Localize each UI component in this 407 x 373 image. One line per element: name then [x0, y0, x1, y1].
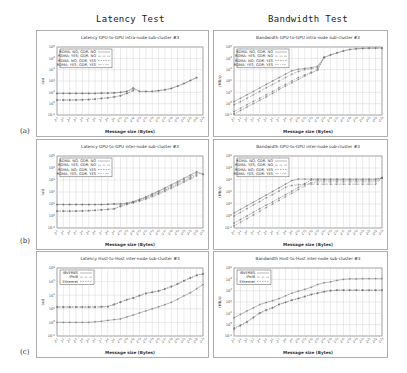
legend-entry-label: RDMA: YES; GDR: YES	[57, 172, 97, 176]
chart-title: Latency GPU-to-GPU inter-node sub-cluste…	[81, 144, 179, 149]
y-axis-label: (us)	[41, 298, 45, 306]
column-title-latency: Latency Test	[96, 14, 165, 24]
x-axis-label: Message size (Bytes)	[105, 242, 155, 247]
y-axis-label: (us)	[41, 188, 45, 196]
panel-c-latency: Latency Host-to-Host inter-node sub-clus…	[36, 251, 209, 358]
column-title-bandwidth: Bandwidth Test	[268, 14, 348, 24]
x-axis-label: Message size (Bytes)	[283, 242, 333, 247]
row-label-b: (b)	[20, 237, 30, 245]
chart-title: Latency Host-to-Host inter-node sub-clus…	[80, 256, 179, 261]
chart-title: Latency GPU-to-GPU intra-node sub-cluste…	[81, 35, 179, 40]
panel-a-bandwidth: Bandwidth GPU-to-GPU intra-node sub-clus…	[213, 30, 388, 137]
x-axis-label: Message size (Bytes)	[283, 129, 333, 134]
legend-entry-label: RDMA: YES; GDR: YES	[57, 63, 97, 67]
legend-entry-label: RDMA: YES; GDR: YES	[234, 172, 274, 176]
panel-b-bandwidth: Bandwidth GPU-to-GPU inter-node sub-clus…	[213, 139, 388, 250]
y-axis-label: (MB/s)	[218, 75, 222, 87]
chart-title: Bandwidth Host-to-Host inter-node sub-cl…	[256, 256, 361, 261]
x-axis-label: Message size (Bytes)	[283, 350, 333, 355]
panel-c-bandwidth: Bandwidth Host-to-Host inter-node sub-cl…	[213, 251, 388, 358]
legend-entry-label: RDMA: YES; GDR: YES	[234, 63, 274, 67]
panel-a-latency: Latency GPU-to-GPU intra-node sub-cluste…	[36, 30, 209, 137]
x-axis-label: Message size (Bytes)	[105, 350, 155, 355]
legend-entry-label: Ethernet	[240, 280, 256, 284]
chart-title: Bandwidth GPU-to-GPU inter-node sub-clus…	[256, 144, 360, 149]
row-label-a: (a)	[20, 127, 30, 135]
y-axis-label: (us)	[41, 77, 45, 85]
panel-b-latency: Latency GPU-to-GPU inter-node sub-cluste…	[36, 139, 209, 250]
chart-title: Bandwidth GPU-to-GPU intra-node sub-clus…	[256, 35, 360, 40]
x-axis-label: Message size (Bytes)	[105, 129, 155, 134]
legend-entry-label: Ethernet	[63, 280, 79, 284]
y-axis-label: (MB/s)	[218, 296, 222, 308]
row-label-c: (c)	[20, 348, 29, 356]
y-axis-label: (MB/s)	[218, 186, 222, 198]
